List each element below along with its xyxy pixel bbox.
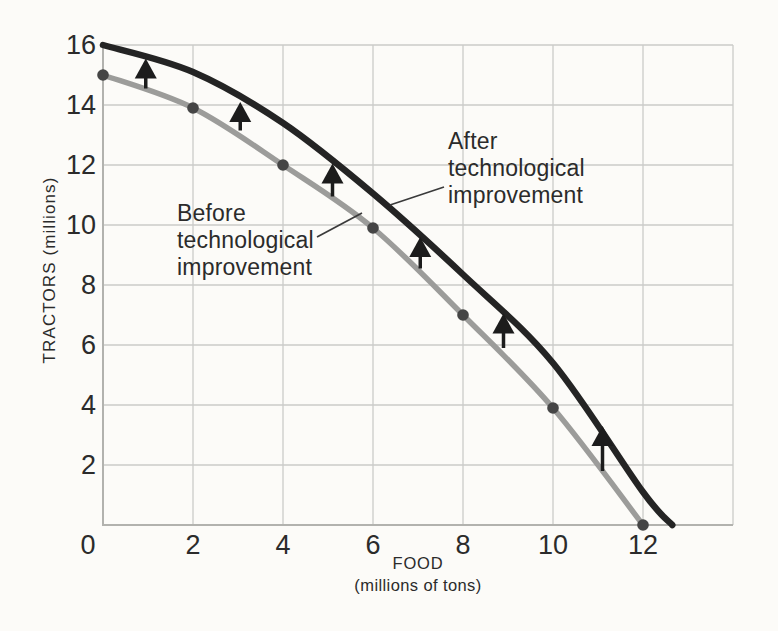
- x-tick-label: 0: [80, 530, 95, 560]
- y-tick-label: 14: [66, 90, 96, 120]
- y-tick-label: 16: [66, 30, 96, 60]
- x-tick-label: 6: [365, 530, 380, 560]
- data-point-marker: [277, 159, 289, 171]
- data-point-marker: [97, 69, 109, 81]
- y-tick-label: 12: [66, 150, 96, 180]
- y-tick-label: 6: [81, 330, 96, 360]
- x-tick-label: 8: [455, 530, 470, 560]
- x-tick-label: 2: [185, 530, 200, 560]
- ppf-chart-figure: 024681012246810121416 TRACTORS (millions…: [0, 0, 778, 631]
- y-tick-label: 10: [66, 210, 96, 240]
- shift-arrow-head-icon: [592, 426, 614, 446]
- plot-area: 024681012246810121416: [0, 0, 778, 631]
- x-tick-label: 10: [538, 530, 568, 560]
- y-tick-label: 4: [81, 390, 96, 420]
- data-point-marker: [547, 402, 559, 414]
- x-tick-label: 4: [275, 530, 290, 560]
- data-point-marker: [187, 102, 199, 114]
- data-point-marker: [457, 309, 469, 321]
- data-point-marker: [367, 222, 379, 234]
- y-tick-label: 8: [81, 270, 96, 300]
- x-tick-label: 12: [628, 530, 658, 560]
- y-tick-label: 2: [81, 450, 96, 480]
- after-leader-line: [390, 187, 444, 205]
